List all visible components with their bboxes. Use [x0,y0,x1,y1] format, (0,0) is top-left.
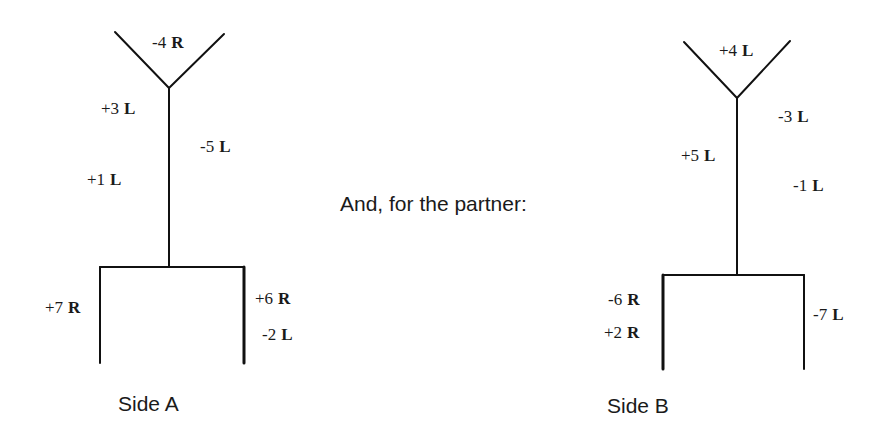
side-b-label-leg-left-2: +2R [604,324,639,341]
side-a-structure [100,32,244,363]
side-a-label-leg-right-2: -2L [262,326,293,343]
side-a-label-leg-right-1: +6R [255,290,290,307]
side-b-label-leg-right: -7L [813,306,844,323]
side-b-structure [663,41,804,369]
side-b-label-lower-right: -1L [793,177,824,194]
side-a-caption: Side A [118,393,179,414]
partner-intro-text: And, for the partner: [340,193,527,214]
side-a-label-top: -4R [152,34,183,51]
side-a-label-mid-right: -5L [200,138,231,155]
side-a-label-leg-left: +7R [45,299,80,316]
side-b-label-top: +4L [719,42,753,59]
side-a-label-lower-left: +1L [87,171,121,188]
side-b-label-leg-left-1: -6R [608,291,639,308]
diagram-lines [0,0,890,432]
side-b-label-mid-left: +5L [681,147,715,164]
side-b-caption: Side B [607,395,669,416]
side-b-label-upper-right: -3L [778,108,809,125]
side-a-label-upper-left: +3L [101,100,135,117]
